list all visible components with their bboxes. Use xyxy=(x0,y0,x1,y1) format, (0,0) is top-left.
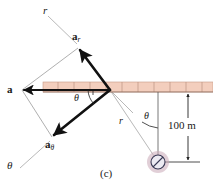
label-a-r: ar xyxy=(72,31,80,43)
acceleration-vectors xyxy=(24,50,110,135)
label-a-resultant: a xyxy=(7,84,13,95)
figure-caption: (c) xyxy=(100,168,112,179)
label-theta-axis-lower: θ xyxy=(7,160,12,171)
ball-object xyxy=(147,151,169,173)
label-a-theta: aθ xyxy=(45,139,54,151)
label-theta-angle-right: θ xyxy=(144,111,149,121)
figure-container: r ar a aθ θ θ θ r 100 m (c) xyxy=(0,0,213,193)
construction-line-lower xyxy=(22,90,52,137)
angle-arc-theta-right xyxy=(142,122,158,128)
label-theta-angle-left: θ xyxy=(74,93,79,103)
label-r-radial: r xyxy=(119,116,123,126)
vector-diagram-canvas xyxy=(0,0,213,193)
label-distance-100m: 100 m xyxy=(168,120,196,131)
vector-a-theta xyxy=(54,90,110,135)
label-r-axis-upper: r xyxy=(43,5,47,16)
radial-line-r xyxy=(110,90,158,162)
label-a-r-sub: r xyxy=(78,35,81,44)
radial-line-guide xyxy=(110,90,133,113)
label-a-theta-sub: θ xyxy=(51,143,55,152)
